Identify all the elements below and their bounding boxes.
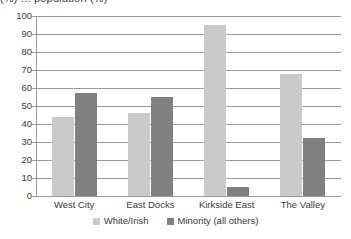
y-axis-tick-label: 40 xyxy=(6,119,32,129)
bar xyxy=(75,93,97,196)
y-axis-tick-label: 0 xyxy=(6,191,32,201)
y-axis-tick-label: 90 xyxy=(6,29,32,39)
x-axis-line xyxy=(36,196,341,197)
legend-item[interactable]: Minority (all others) xyxy=(167,216,259,226)
bar-group xyxy=(189,16,265,196)
legend-label: White/Irish xyxy=(104,216,149,226)
bar xyxy=(128,113,150,196)
legend-item[interactable]: White/Irish xyxy=(93,216,149,226)
y-axis-tick-label: 70 xyxy=(6,65,32,75)
legend-swatch-icon xyxy=(93,218,100,225)
bar xyxy=(52,117,74,196)
x-axis-tick-label: East Docks xyxy=(112,199,188,211)
legend-swatch-icon xyxy=(167,218,174,225)
bar-group xyxy=(265,16,341,196)
bar xyxy=(280,74,302,196)
bar-group xyxy=(112,16,188,196)
chart-title-clipped: (%) ... population (%) xyxy=(0,0,351,5)
x-axis-tick-label: Kirkside East xyxy=(189,199,265,211)
bar-group xyxy=(36,16,112,196)
bar xyxy=(227,187,249,196)
y-axis-tick-label: 50 xyxy=(6,101,32,111)
x-axis-labels: West CityEast DocksKirkside EastThe Vall… xyxy=(36,199,341,213)
bar xyxy=(303,138,325,196)
x-axis-tick-label: West City xyxy=(36,199,112,211)
y-axis-tick-label: 10 xyxy=(6,173,32,183)
chart-legend: White/IrishMinority (all others) xyxy=(0,216,351,226)
y-axis-labels: 0102030405060708090100 xyxy=(0,16,32,196)
bar-chart: (%) ... population (%) 01020304050607080… xyxy=(0,0,351,239)
y-axis-tick-label: 80 xyxy=(6,47,32,57)
y-axis-tick-label: 20 xyxy=(6,155,32,165)
legend-label: Minority (all others) xyxy=(178,216,259,226)
chart-title-text: (%) ... population (%) xyxy=(0,0,351,5)
bar xyxy=(204,25,226,196)
plot-area xyxy=(36,16,341,196)
x-axis-tick-label: The Valley xyxy=(265,199,341,211)
y-axis-tick-label: 100 xyxy=(6,11,32,21)
y-axis-tick-label: 60 xyxy=(6,83,32,93)
bar xyxy=(151,97,173,196)
y-axis-tick-label: 30 xyxy=(6,137,32,147)
y-axis-tick xyxy=(32,196,36,197)
